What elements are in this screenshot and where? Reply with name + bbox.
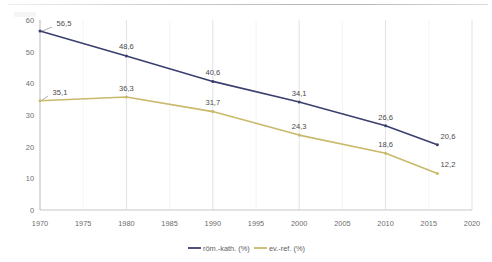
x-tick-label: 2005 bbox=[334, 219, 350, 228]
data-label: 18,6 bbox=[378, 140, 393, 149]
x-tick-label: 1990 bbox=[205, 219, 221, 228]
x-tick-label: 1980 bbox=[118, 219, 134, 228]
y-tick-label: 60 bbox=[26, 16, 34, 25]
y-tick-label: 40 bbox=[26, 79, 34, 88]
data-label: 48,6 bbox=[119, 42, 134, 51]
legend-label-roem-kath[interactable]: röm.-kath. (%) bbox=[203, 244, 250, 253]
data-label: 24,3 bbox=[292, 122, 307, 131]
y-tick-label: 0 bbox=[30, 206, 34, 215]
y-tick-label: 20 bbox=[26, 143, 34, 152]
data-label: 35,1 bbox=[53, 88, 68, 97]
legend-label-ev-ref[interactable]: ev.-ref. (%) bbox=[269, 244, 305, 253]
data-label: 56,5 bbox=[57, 19, 72, 28]
x-axis-ticks: 1970 1975 1980 1985 1990 1995 2000 2005 … bbox=[32, 219, 480, 228]
data-label: 40,6 bbox=[205, 68, 220, 77]
x-tick-label: 2000 bbox=[291, 219, 307, 228]
y-tick-label: 10 bbox=[26, 174, 34, 183]
chart-container: 60 50 40 30 20 10 0 1970 1975 1980 1985 … bbox=[0, 0, 492, 262]
y-tick-label: 50 bbox=[26, 48, 34, 57]
data-label: 12,2 bbox=[441, 160, 456, 169]
x-tick-label: 1995 bbox=[248, 219, 264, 228]
chart-legend: röm.-kath. (%) ev.-ref. (%) bbox=[188, 244, 305, 253]
x-tick-label: 2015 bbox=[421, 219, 437, 228]
data-label: 36,3 bbox=[119, 84, 134, 93]
data-label: 31,7 bbox=[205, 98, 220, 107]
x-tick-label: 2020 bbox=[464, 219, 480, 228]
x-tick-label: 1985 bbox=[161, 219, 177, 228]
x-tick-label: 1975 bbox=[75, 219, 91, 228]
line-chart: 60 50 40 30 20 10 0 1970 1975 1980 1985 … bbox=[0, 0, 492, 262]
data-label: 26,6 bbox=[378, 113, 393, 122]
y-axis-ticks: 60 50 40 30 20 10 0 bbox=[26, 16, 34, 215]
data-label: 20,6 bbox=[441, 132, 456, 141]
y-tick-label: 30 bbox=[26, 111, 34, 120]
data-label: 34,1 bbox=[292, 89, 307, 98]
x-tick-label: 1970 bbox=[32, 219, 48, 228]
x-tick-label: 2010 bbox=[377, 219, 393, 228]
